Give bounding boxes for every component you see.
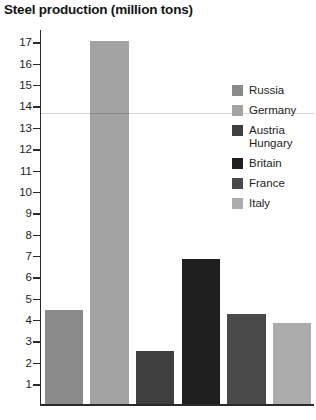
y-axis-tick-mark xyxy=(33,235,40,236)
legend-swatch-icon xyxy=(232,178,243,189)
page-title: Steel production (million tons) xyxy=(4,2,193,17)
y-axis-tick-label: 2 xyxy=(26,357,32,369)
y-axis-tick-label: 12 xyxy=(19,143,32,155)
y-axis-tick-mark xyxy=(33,42,40,43)
legend-swatch-icon xyxy=(232,198,243,209)
legend-item-label: Britain xyxy=(249,157,282,170)
bar-italy[interactable] xyxy=(273,323,312,404)
y-axis-tick-label: 4 xyxy=(26,314,32,326)
y-axis-tick-label: 17 xyxy=(19,36,32,48)
y-axis-tick-mark xyxy=(33,363,40,364)
bar-russia[interactable] xyxy=(45,310,84,404)
y-axis-tick-mark xyxy=(33,299,40,300)
y-axis-tick-label: 1 xyxy=(26,378,32,390)
y-axis-tick: 5 xyxy=(0,293,40,305)
y-axis-tick-label: 6 xyxy=(26,271,32,283)
legend: RussiaGermanyAustria HungaryBritainFranc… xyxy=(232,84,316,217)
legend-swatch-icon xyxy=(232,125,243,136)
y-axis-tick: 1 xyxy=(0,379,40,391)
y-axis-tick: 11 xyxy=(0,165,40,177)
y-axis-tick: 8 xyxy=(0,229,40,241)
bar-germany[interactable] xyxy=(90,41,129,404)
y-axis-tick: 4 xyxy=(0,315,40,327)
y-axis-tick-mark xyxy=(33,192,40,193)
y-axis-tick-mark xyxy=(33,341,40,342)
legend-item[interactable]: France xyxy=(232,177,316,190)
y-axis: 1716151413121110987654321 xyxy=(0,30,40,406)
legend-item-label: Germany xyxy=(249,104,296,117)
y-axis-tick-label: 14 xyxy=(19,100,32,112)
legend-item[interactable]: Germany xyxy=(232,104,316,117)
y-axis-tick-mark xyxy=(33,320,40,321)
y-axis-tick-label: 15 xyxy=(19,79,32,91)
y-axis-tick-label: 7 xyxy=(26,250,32,262)
y-axis-tick-mark xyxy=(33,277,40,278)
legend-item[interactable]: Russia xyxy=(232,84,316,97)
y-axis-tick-label: 3 xyxy=(26,335,32,347)
legend-item[interactable]: Austria Hungary xyxy=(232,124,316,150)
y-axis-tick-label: 8 xyxy=(26,229,32,241)
legend-item-label: Russia xyxy=(249,84,284,97)
y-axis-tick: 15 xyxy=(0,80,40,92)
legend-item[interactable]: Britain xyxy=(232,157,316,170)
y-axis-tick-label: 5 xyxy=(26,293,32,305)
legend-swatch-icon xyxy=(232,85,243,96)
y-axis-tick: 7 xyxy=(0,250,40,262)
y-axis-tick-label: 16 xyxy=(19,58,32,70)
legend-swatch-icon xyxy=(232,105,243,116)
y-axis-tick-mark xyxy=(33,64,40,65)
legend-item-label: France xyxy=(249,177,285,190)
y-axis-tick: 10 xyxy=(0,186,40,198)
y-axis-tick: 14 xyxy=(0,101,40,113)
y-axis-tick-mark xyxy=(33,256,40,257)
y-axis-tick-mark xyxy=(33,85,40,86)
legend-item-label: Austria Hungary xyxy=(249,124,292,150)
y-axis-tick: 12 xyxy=(0,144,40,156)
chart-page: Steel production (million tons) 17161514… xyxy=(0,0,316,420)
y-axis-tick-label: 11 xyxy=(20,165,32,177)
y-axis-tick: 9 xyxy=(0,208,40,220)
y-axis-tick: 6 xyxy=(0,272,40,284)
y-axis-tick-mark xyxy=(33,171,40,172)
y-axis-tick-mark xyxy=(33,149,40,150)
y-axis-tick: 17 xyxy=(0,37,40,49)
bar-france[interactable] xyxy=(227,314,266,404)
y-axis-tick: 13 xyxy=(0,122,40,134)
legend-swatch-icon xyxy=(232,158,243,169)
y-axis-tick: 3 xyxy=(0,336,40,348)
y-axis-tick-mark xyxy=(33,106,40,107)
y-axis-tick-mark xyxy=(33,213,40,214)
y-axis-tick-label: 13 xyxy=(19,122,32,134)
y-axis-tick: 2 xyxy=(0,357,40,369)
y-axis-tick-mark xyxy=(33,128,40,129)
y-axis-tick-label: 10 xyxy=(19,186,32,198)
bar-britain[interactable] xyxy=(182,259,221,404)
y-axis-tick: 16 xyxy=(0,58,40,70)
bar-austria-hungary[interactable] xyxy=(136,351,175,404)
y-axis-tick-label: 9 xyxy=(26,207,32,219)
y-axis-tick-mark xyxy=(33,384,40,385)
legend-item[interactable]: Italy xyxy=(232,197,316,210)
legend-item-label: Italy xyxy=(249,197,270,210)
